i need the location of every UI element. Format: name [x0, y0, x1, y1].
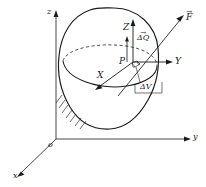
- global-y-axis-label: y: [193, 133, 198, 141]
- local-X-axis-label: X: [97, 71, 103, 80]
- global-z-axis: [54, 10, 59, 139]
- force-text-wrap: → F: [186, 13, 192, 22]
- global-x-axis-label: x: [13, 172, 18, 180]
- local-Z-axis-label: Z: [123, 23, 129, 32]
- delta-q-label: → ΔQ: [137, 34, 149, 42]
- point-p-label: P: [119, 57, 125, 66]
- diagram-canvas: [0, 0, 206, 187]
- elastic-body-outline: [58, 8, 158, 129]
- delta-v-label: ΔV: [140, 83, 152, 91]
- force-vector-accent: →: [186, 9, 192, 16]
- force-label: → F: [186, 13, 192, 22]
- delta-q-vector-accent: →: [137, 30, 149, 37]
- global-y-axis: [56, 137, 191, 142]
- origin-label: o: [48, 141, 53, 149]
- delta-q-text-wrap: → ΔQ: [137, 34, 149, 42]
- global-z-axis-label: z: [47, 8, 51, 16]
- local-Y-axis-label: Y: [175, 57, 181, 66]
